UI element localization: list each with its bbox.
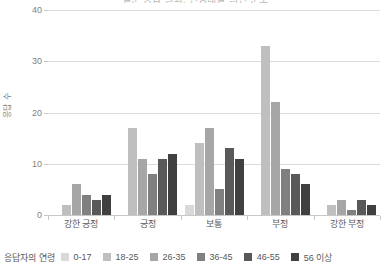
- legend-swatch-icon: [197, 253, 205, 261]
- legend-label: 0-17: [74, 252, 92, 262]
- y-tick-label-40: 40: [32, 5, 42, 15]
- bar-group: [181, 10, 247, 215]
- bar[interactable]: [347, 210, 356, 215]
- legend-item[interactable]: 36-45: [197, 252, 233, 262]
- bar[interactable]: [205, 128, 214, 215]
- bar[interactable]: [281, 169, 290, 215]
- x-tick-mark: [247, 216, 248, 220]
- x-axis-label: 강한 부정: [314, 216, 380, 232]
- chart-title: 설문 응답 결과: 연령대별 의견 분포: [0, 0, 390, 3]
- legend-swatch-icon: [61, 253, 69, 261]
- bar[interactable]: [215, 189, 224, 215]
- legend-item[interactable]: 0-17: [61, 252, 92, 262]
- x-axis-labels: 강한 긍정긍정보통부정강한 부정: [48, 216, 380, 232]
- bar[interactable]: [158, 159, 167, 215]
- legend-swatch-icon: [103, 253, 111, 261]
- x-tick-mark: [314, 216, 315, 220]
- legend-swatch-icon: [244, 253, 252, 261]
- bar[interactable]: [62, 205, 71, 215]
- legend-swatch-icon: [150, 253, 158, 261]
- bar[interactable]: [225, 148, 234, 215]
- bar[interactable]: [92, 200, 101, 215]
- legend-item[interactable]: 26-35: [150, 252, 186, 262]
- bar-groups: [48, 10, 380, 215]
- bar[interactable]: [327, 205, 336, 215]
- bar-group: [314, 10, 380, 215]
- bar[interactable]: [72, 184, 81, 215]
- legend-label: 18-25: [116, 252, 139, 262]
- bar[interactable]: [82, 195, 91, 216]
- bar[interactable]: [185, 205, 194, 215]
- x-tick-mark: [114, 216, 115, 220]
- x-axis-label: 강한 긍정: [48, 216, 114, 232]
- legend-label: 26-35: [163, 252, 186, 262]
- bar[interactable]: [301, 184, 310, 215]
- x-tick-mark: [380, 216, 381, 220]
- legend-label: 46-55: [257, 252, 280, 262]
- y-tick-label-20: 20: [32, 108, 42, 118]
- x-axis-label: 긍정: [114, 216, 180, 232]
- bar[interactable]: [102, 195, 111, 216]
- legend-label: 36-45: [210, 252, 233, 262]
- bar[interactable]: [271, 102, 280, 215]
- bar[interactable]: [261, 46, 270, 215]
- chart-legend: 응답자의 연령 0-1718-2526-3536-4546-5556 이상: [4, 250, 388, 264]
- plot-area: 010203040: [48, 10, 380, 215]
- legend-item[interactable]: 46-55: [244, 252, 280, 262]
- bar[interactable]: [337, 200, 346, 215]
- y-tick-label-0: 0: [37, 210, 42, 220]
- y-tick-label-30: 30: [32, 56, 42, 66]
- legend-item[interactable]: 56 이상: [291, 251, 333, 264]
- legend-title: 응답자의 연령: [4, 251, 55, 264]
- bar[interactable]: [357, 200, 366, 215]
- bar[interactable]: [148, 174, 157, 215]
- bar[interactable]: [138, 159, 147, 215]
- legend-swatch-icon: [291, 253, 299, 261]
- bar[interactable]: [367, 205, 376, 215]
- x-axis-label: 부정: [247, 216, 313, 232]
- y-axis-title: 응답 수: [1, 86, 12, 126]
- bar[interactable]: [168, 154, 177, 216]
- bar[interactable]: [291, 174, 300, 215]
- bar[interactable]: [128, 128, 137, 215]
- x-tick-mark: [48, 216, 49, 220]
- bar-group: [247, 10, 313, 215]
- bar[interactable]: [235, 159, 244, 215]
- y-tick-label-10: 10: [32, 159, 42, 169]
- x-tick-mark: [181, 216, 182, 220]
- x-axis-label: 보통: [181, 216, 247, 232]
- bar-group: [48, 10, 114, 215]
- legend-item[interactable]: 18-25: [103, 252, 139, 262]
- legend-label: 56 이상: [304, 251, 333, 264]
- bar[interactable]: [195, 143, 204, 215]
- bar-group: [114, 10, 180, 215]
